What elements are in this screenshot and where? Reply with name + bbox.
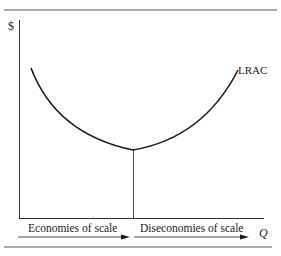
- lrac-label: LRAC: [238, 64, 267, 76]
- y-axis-label: $: [8, 19, 14, 33]
- diseconomies-of-scale-label: Diseconomies of scale: [140, 222, 243, 234]
- diseconomies-arrow-head-icon: [240, 235, 249, 240]
- economies-of-scale-label: Economies of scale: [28, 222, 117, 234]
- x-axis-label: Q: [259, 226, 268, 240]
- economies-arrow-head-icon: [121, 235, 130, 240]
- lrac-diagram: $ Q LRAC Economies of scale Diseconomies…: [0, 0, 281, 256]
- lrac-curve: [31, 68, 238, 150]
